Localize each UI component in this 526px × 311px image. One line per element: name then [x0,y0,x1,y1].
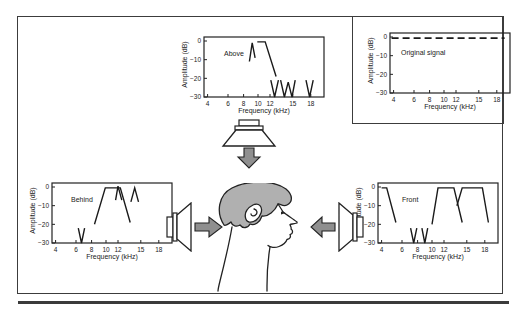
plot-behind: Amplitude (dB) Behind Frequency (kHz) 0−… [16,173,186,269]
y-tick-label: 0 [45,183,49,190]
x-tick-label: 15 [475,96,483,103]
series-passband-8.5-13.5kHz [95,188,131,224]
y-tick-label: −20 [190,75,201,82]
x-tick-label: 15 [463,246,471,253]
x-tick-label: 4 [392,96,396,103]
speaker-horn [339,203,353,251]
speaker-magnet [239,120,259,126]
series-notch-9kHz [422,228,428,243]
y-tick-label: −10 [190,56,201,63]
y-tick-label: −30 [190,93,201,100]
x-tick-label: 4 [54,246,58,253]
y-tick-label: 0 [383,33,387,40]
plot-frame [204,37,324,97]
plot-frame [390,33,510,93]
x-tick-label: 6 [400,246,404,253]
bottom-rule [18,301,509,304]
x-tick-label: 12 [114,246,122,253]
x-tick-label: 6 [74,246,78,253]
hrtf-figure: Amplitude (dB) Above Frequency (kHz) 0−1… [0,0,526,311]
y-tick-label: −10 [38,202,49,209]
x-tick-label: 12 [452,96,460,103]
series-peak-14.2kHz [131,188,139,202]
x-tick-label: 8 [90,246,94,253]
x-tick-label: 8 [242,100,246,107]
x-tick-label: 4 [206,100,210,107]
y-tick-label: −20 [364,221,375,228]
speaker-horn [177,203,191,251]
speaker-magnet [167,217,173,237]
x-tick-label: 6 [226,100,230,107]
x-tick-label: 12 [266,100,274,107]
speaker-above-icon [219,119,279,169]
axes-svg-original: 0−10−20−3046810121518 [354,23,524,119]
nose-mouth-chin [268,212,297,247]
x-tick-label: 18 [481,246,489,253]
neck-back [218,227,232,291]
y-tick-label: −20 [38,221,49,228]
x-tick-label: 10 [440,96,448,103]
series-plateau-and-rolloff [257,42,276,77]
series-notch-7.5kHz [411,228,417,243]
x-tick-label: 10 [102,246,110,253]
axes-svg-behind: 0−10−20−3046810121518 [16,173,186,269]
plot-original-signal: Amplitude (dB) Original signal Frequency… [354,23,524,119]
y-tick-label: −30 [376,89,387,96]
x-tick-label: 8 [416,246,420,253]
speaker-horn [223,130,275,146]
series-double-notch-13.9-14.9kHz [281,80,296,97]
plot-frame [52,183,172,243]
series-passband-10-14.5kHz [432,188,462,224]
y-tick-label: −30 [364,239,375,246]
y-tick-label: 0 [371,183,375,190]
series-notch-12.6kHz [271,80,279,97]
x-tick-label: 15 [289,100,297,107]
series-peak-9kHz [249,43,255,62]
x-tick-label: 18 [307,100,315,107]
series-low-edge-rolloff [382,188,396,223]
speaker-flange [353,213,357,241]
listener-head [208,183,320,293]
neck-front [267,247,270,291]
x-tick-label: 8 [428,96,432,103]
y-tick-label: −30 [38,239,49,246]
x-tick-label: 12 [440,246,448,253]
plot-above: Amplitude (dB) Above Frequency (kHz) 0−1… [168,27,338,123]
x-tick-label: 4 [380,246,384,253]
y-tick-label: −10 [364,202,375,209]
series-notch-6.7kHz [78,228,84,243]
x-tick-label: 6 [412,96,416,103]
x-tick-label: 10 [254,100,262,107]
x-tick-label: 18 [155,246,163,253]
x-tick-label: 10 [428,246,436,253]
x-tick-label: 18 [493,96,501,103]
y-tick-label: −10 [376,52,387,59]
y-tick-label: −20 [376,71,387,78]
x-tick-label: 15 [137,246,145,253]
arrow-down-icon [238,148,260,168]
series-notch-17.8kHz [306,80,313,97]
plot-front: Amplitude (dB) Front Frequency (kHz) 0−1… [342,173,512,269]
axes-svg-front: 0−10−20−3046810121518 [342,173,512,269]
axes-svg-above: 0−10−20−3046810121518 [168,27,338,123]
speaker-magnet [357,217,363,237]
y-tick-label: 0 [197,37,201,44]
